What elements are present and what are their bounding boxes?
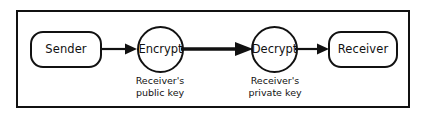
node-decrypt: Decrypt	[251, 26, 298, 73]
arrow-decrypt-to-receiver	[295, 41, 332, 57]
caption-decrypt-key: Receiver's private key	[225, 75, 325, 98]
node-encrypt-label: Encrypt	[138, 44, 182, 56]
node-encrypt: Encrypt	[137, 26, 184, 73]
node-decrypt-label: Decrypt	[252, 44, 298, 56]
caption-decrypt-line1: Receiver's	[225, 75, 325, 87]
arrow-encrypt-to-decrypt	[181, 41, 255, 57]
caption-decrypt-line2: private key	[225, 87, 325, 99]
node-receiver-label: Receiver	[338, 44, 389, 56]
node-sender: Sender	[30, 31, 102, 68]
node-receiver: Receiver	[328, 31, 398, 68]
caption-encrypt-key: Receiver's public key	[110, 75, 210, 98]
arrow-sender-to-encrypt	[100, 41, 140, 57]
caption-encrypt-line2: public key	[110, 87, 210, 99]
node-sender-label: Sender	[45, 44, 86, 56]
diagram-canvas: Sender Encrypt Receiver's public key Dec…	[0, 0, 423, 117]
caption-encrypt-line1: Receiver's	[110, 75, 210, 87]
